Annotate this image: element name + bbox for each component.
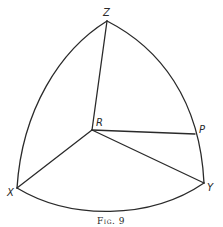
- edge-r-y: [92, 130, 204, 183]
- edge-r-x: [17, 130, 92, 188]
- vertex-label-z: Z: [102, 7, 111, 18]
- arc-x-y: [17, 183, 204, 211]
- vertex-label-x: X: [6, 187, 15, 198]
- vertex-label-r: R: [96, 117, 103, 128]
- spherical-triangle-diagram: Z R P X Y Fig. 9: [0, 0, 223, 227]
- arc-z-y: [107, 21, 204, 183]
- vertex-label-p: P: [199, 124, 206, 135]
- edge-r-p: [92, 130, 195, 134]
- vertex-label-y: Y: [207, 182, 214, 193]
- figure-caption: Fig. 9: [97, 216, 125, 226]
- edge-r-z: [92, 21, 107, 130]
- arc-z-x: [17, 21, 107, 188]
